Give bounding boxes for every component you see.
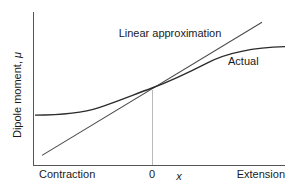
y-axis-title-group: Dipole moment, μ: [11, 52, 23, 138]
chart-figure: Dipole moment, μ 0 x Contraction Extensi…: [0, 0, 295, 187]
x-axis-title: x: [175, 170, 182, 182]
annotation-actual: Actual: [228, 55, 259, 67]
y-axis-title-text: Dipole moment,: [11, 61, 23, 138]
annotation-linear-approximation: Linear approximation: [119, 27, 222, 39]
y-axis-title-symbol: μ: [11, 52, 23, 59]
x-axis-left-end-label: Contraction: [39, 168, 95, 180]
x-tick-label-zero: 0: [149, 168, 155, 180]
y-axis-title: Dipole moment, μ: [11, 52, 23, 138]
x-axis-right-end-label: Extension: [237, 168, 285, 180]
dipole-moment-plot: Dipole moment, μ 0 x Contraction Extensi…: [0, 0, 295, 187]
